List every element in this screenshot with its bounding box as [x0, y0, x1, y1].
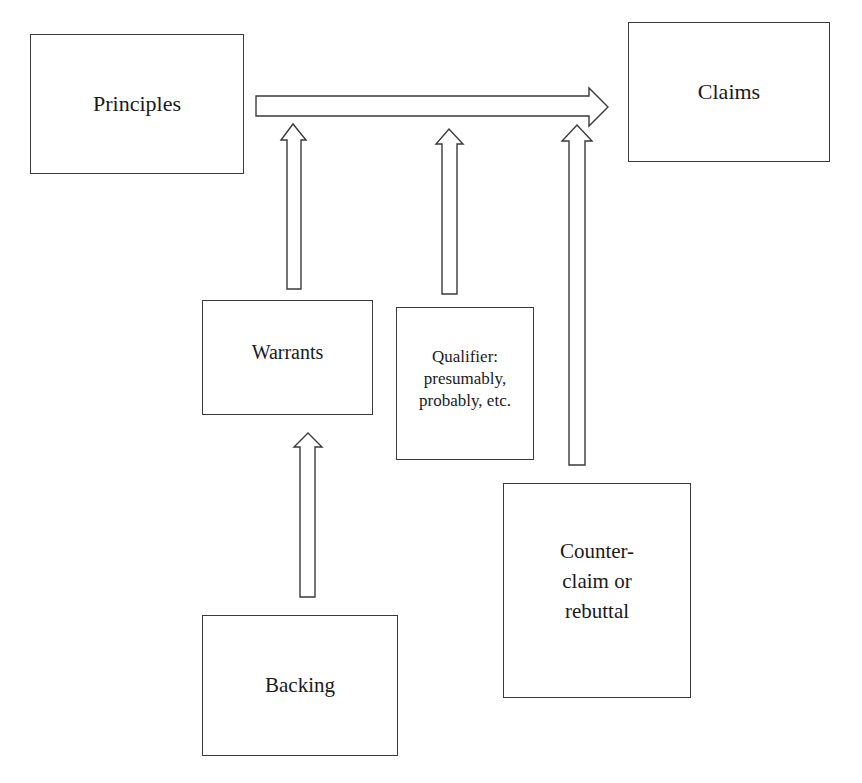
principles-box: Principles [30, 34, 244, 174]
arrow-warrants-up [281, 124, 306, 289]
counterclaim-box: Counter- claim or rebuttal [503, 483, 691, 698]
warrants-box: Warrants [202, 300, 373, 415]
qualifier-box: Qualifier: presumably, probably, etc. [396, 307, 534, 460]
arrow-backing-up [294, 433, 322, 597]
warrants-label: Warrants [252, 341, 324, 364]
claims-label: Claims [698, 79, 760, 105]
backing-box: Backing [202, 615, 398, 756]
qualifier-label: Qualifier: presumably, probably, etc. [419, 346, 511, 412]
principles-label: Principles [93, 91, 181, 117]
arrow-counterclaim-up [562, 125, 592, 465]
counterclaim-label: Counter- claim or rebuttal [560, 536, 634, 626]
arrow-principles-to-claims [256, 88, 608, 126]
toulmin-argument-diagram: Principles Claims Warrants Qualifier: pr… [0, 0, 862, 783]
arrow-qualifier-up [436, 129, 463, 294]
claims-box: Claims [628, 22, 830, 162]
backing-label: Backing [265, 673, 335, 698]
